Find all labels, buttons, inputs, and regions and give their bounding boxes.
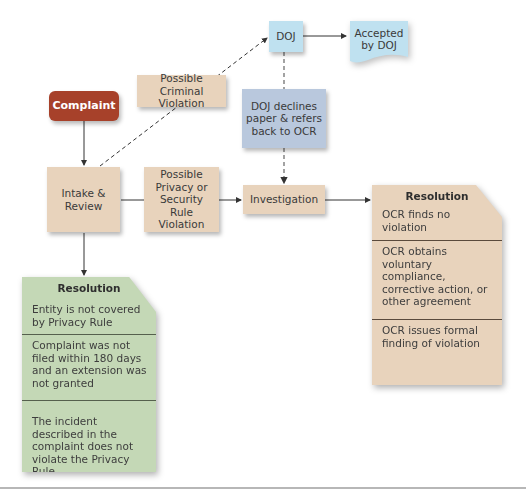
resolution-item: OCR finds no violation — [372, 204, 502, 240]
resolution-ocr-panel: Resolution OCR finds no violation OCR ob… — [372, 185, 502, 385]
resolution-title: Resolution — [372, 185, 502, 204]
intake-review-node: Intake & Review — [47, 167, 120, 232]
possible-privacy-security-violation-node: Possible Privacy or Security Rule Violat… — [144, 167, 219, 232]
resolution-item: Entity is not covered by Privacy Rule — [22, 296, 156, 334]
complaint-node: Complaint — [49, 91, 119, 121]
bottom-divider — [0, 487, 526, 489]
investigation-node: Investigation — [243, 185, 325, 214]
resolution-title: Resolution — [22, 277, 156, 296]
resolution-item: The incident described in the complaint … — [22, 400, 156, 472]
doj-node: DOJ — [269, 21, 303, 52]
resolution-item: OCR obtains voluntary compliance, correc… — [372, 240, 502, 319]
possible-criminal-violation-node: Possible Criminal Violation — [137, 75, 226, 107]
doj-declines-node: DOJ declines paper & refers back to OCR — [242, 89, 326, 148]
accepted-by-doj-node: Accepted by DOJ — [350, 24, 408, 54]
resolution-item: OCR issues formal finding of violation — [372, 319, 502, 379]
resolution-item: Complaint was not filed within 180 days … — [22, 334, 156, 400]
resolution-dismissal-panel: Resolution Entity is not covered by Priv… — [22, 277, 156, 472]
